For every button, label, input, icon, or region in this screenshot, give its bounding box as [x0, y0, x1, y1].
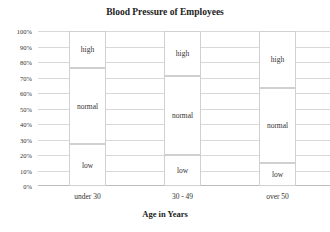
plot-area: lownormalhighlownormalhighlownormalhigh	[38, 31, 330, 186]
y-tick-label: 80%	[0, 59, 32, 66]
chart-title: Blood Pressure of Employees	[0, 7, 330, 17]
y-tick-label: 90%	[0, 43, 32, 50]
bar-segment-low: low	[69, 144, 106, 186]
bar-segment-high: high	[69, 31, 106, 68]
stacked-bar: lownormalhigh	[69, 31, 106, 186]
x-tick-label: under 30	[58, 192, 118, 201]
y-tick-label: 30%	[0, 136, 32, 143]
y-axis-labels: 0%10%20%30%40%50%60%70%80%90%100%	[0, 31, 36, 186]
y-tick-label: 60%	[0, 90, 32, 97]
y-tick-label: 40%	[0, 121, 32, 128]
stacked-bar: lownormalhigh	[164, 31, 201, 186]
y-tick-label: 70%	[0, 74, 32, 81]
stacked-bar: lownormalhigh	[259, 31, 296, 186]
bar-segment-normal: normal	[69, 68, 106, 144]
bar-segment-high: high	[164, 31, 201, 76]
y-tick-label: 20%	[0, 152, 32, 159]
x-tick-label: over 50	[248, 192, 308, 201]
y-tick-label: 10%	[0, 167, 32, 174]
bar-segment-high: high	[259, 31, 296, 88]
y-tick-label: 0%	[0, 183, 32, 190]
bar-segment-normal: normal	[164, 76, 201, 155]
y-tick-label: 50%	[0, 105, 32, 112]
x-axis-title: Age in Years	[0, 209, 330, 219]
x-tick-label: 30 - 49	[153, 192, 213, 201]
bar-segment-low: low	[164, 155, 201, 186]
bar-segment-low: low	[259, 163, 296, 186]
y-tick-label: 100%	[0, 28, 32, 35]
bar-segment-normal: normal	[259, 88, 296, 162]
